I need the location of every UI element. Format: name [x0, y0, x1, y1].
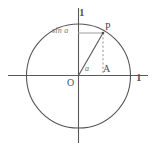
point-p-label: P	[105, 22, 111, 32]
x-axis-unit-label: 1	[136, 72, 142, 83]
point-a-label: A	[103, 64, 110, 74]
angle-label: a	[85, 65, 89, 73]
unit-circle-figure: 1 1 P A O a sin a	[0, 0, 153, 146]
radius-op-line	[79, 33, 104, 76]
y-axis-unit-label: 1	[79, 7, 85, 18]
point-p-marker	[102, 32, 105, 35]
sine-segment-label: sin a	[52, 27, 68, 35]
origin-label: O	[67, 78, 74, 88]
unit-circle-canvas	[0, 0, 153, 146]
